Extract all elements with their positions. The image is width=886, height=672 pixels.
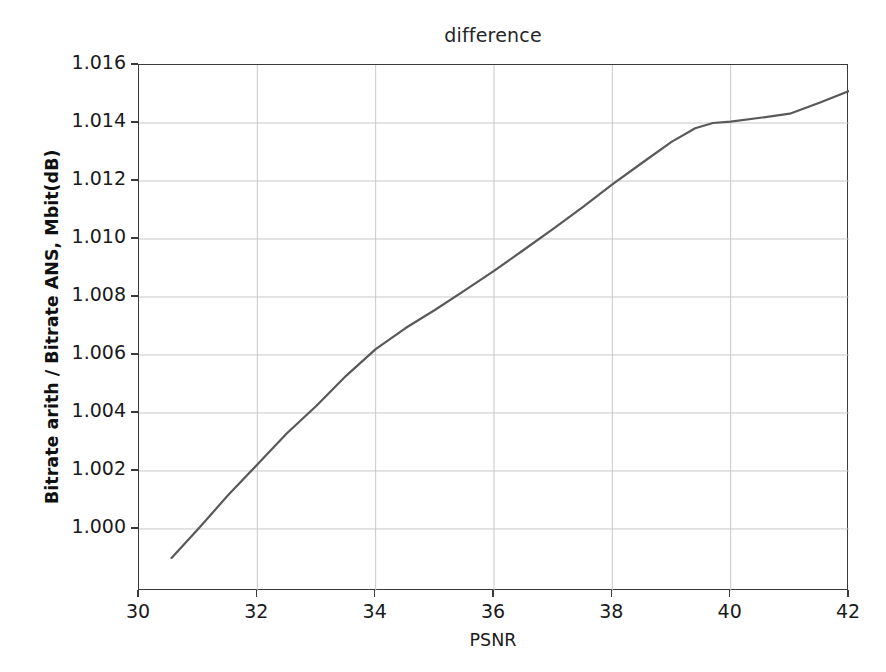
y-tick-mark bbox=[131, 353, 138, 355]
data-line-0 bbox=[172, 91, 849, 558]
x-tick-label: 40 bbox=[690, 600, 770, 622]
x-tick-mark bbox=[256, 590, 258, 597]
chart-title: difference bbox=[138, 24, 848, 46]
x-tick-mark bbox=[374, 590, 376, 597]
x-tick-label: 38 bbox=[571, 600, 651, 622]
x-tick-mark bbox=[137, 590, 139, 597]
y-tick-mark bbox=[131, 527, 138, 529]
x-tick-mark bbox=[492, 590, 494, 597]
figure-canvas: difference 1.0001.0021.0041.0061.0081.01… bbox=[0, 0, 886, 672]
x-tick-mark bbox=[847, 590, 849, 597]
y-tick-mark bbox=[131, 63, 138, 65]
x-tick-label: 34 bbox=[335, 600, 415, 622]
y-tick-label: 1.006 bbox=[72, 341, 126, 363]
plot-area bbox=[138, 64, 848, 590]
y-tick-label: 1.008 bbox=[72, 283, 126, 305]
y-tick-label: 1.014 bbox=[72, 109, 126, 131]
x-tick-mark bbox=[729, 590, 731, 597]
y-tick-mark bbox=[131, 121, 138, 123]
y-tick-label: 1.012 bbox=[72, 167, 126, 189]
x-tick-label: 36 bbox=[453, 600, 533, 622]
y-tick-mark bbox=[131, 411, 138, 413]
x-tick-mark bbox=[611, 590, 613, 597]
y-tick-mark bbox=[131, 179, 138, 181]
x-tick-label: 30 bbox=[98, 600, 178, 622]
data-series-group bbox=[172, 91, 849, 558]
y-axis-label: Bitrate arith / Bitrate ANS, Mbit(dB) bbox=[42, 150, 62, 504]
y-tick-label: 1.016 bbox=[72, 51, 126, 73]
y-tick-label: 1.010 bbox=[72, 225, 126, 247]
y-tick-label: 1.002 bbox=[72, 457, 126, 479]
x-tick-label: 42 bbox=[808, 600, 886, 622]
grid-lines bbox=[139, 65, 849, 591]
y-tick-mark bbox=[131, 295, 138, 297]
plot-svg bbox=[139, 65, 849, 591]
y-tick-mark bbox=[131, 237, 138, 239]
y-tick-label: 1.000 bbox=[72, 515, 126, 537]
x-axis-label: PSNR bbox=[138, 630, 848, 650]
y-tick-label: 1.004 bbox=[72, 399, 126, 421]
y-tick-mark bbox=[131, 469, 138, 471]
x-tick-label: 32 bbox=[216, 600, 296, 622]
